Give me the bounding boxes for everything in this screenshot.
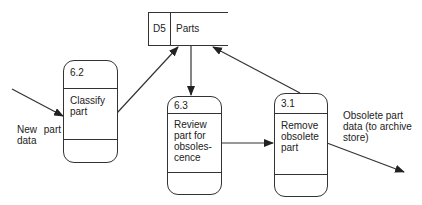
process-label: Remove obsolete part [281, 120, 319, 153]
flow-remove-to-parts [213, 47, 300, 93]
process-id: 6.2 [70, 67, 84, 78]
process-label: Review part for obsoles- cence [174, 119, 212, 163]
flow-new-part-data [12, 89, 63, 116]
process-label: Classify part [70, 95, 105, 117]
process-review-part: 6.3 Review part for obsoles- cence [167, 96, 222, 195]
process-id: 6.3 [174, 100, 188, 111]
data-store-parts: D5 Parts [148, 12, 228, 46]
process-remove-obsolete-part: 3.1 Remove obsolete part [274, 93, 328, 197]
flow-label-new-part-data: New part data [17, 124, 61, 146]
flow-obsolete-part-data [327, 143, 404, 172]
data-store-id: D5 [153, 23, 166, 34]
process-classify-part: 6.2 Classify part [63, 60, 118, 163]
process-id: 3.1 [281, 98, 295, 109]
data-store-name: Parts [176, 23, 199, 34]
flow-label-obsolete-part-data: Obsolete part data (to archive store) [343, 110, 412, 143]
